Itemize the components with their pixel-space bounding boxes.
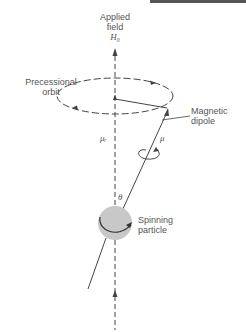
spinning-particle-label: Spinning particle [138,215,173,235]
precessional-line1: Precessional [22,77,80,87]
mu-label: μ [160,133,165,143]
field-arrow-bottom-icon [113,290,118,297]
mu-vector [122,110,168,211]
dipole-leader [162,116,190,120]
mu-arrow-icon [164,108,169,116]
precession-diagram [0,0,246,332]
applied-field-label: Applied field H₀ [92,12,138,42]
orbit-radius [115,99,167,108]
mu-z-label: μᵣ [100,133,107,143]
orbit-arrow-icon [150,81,156,86]
field-arrow-icon [113,48,118,56]
precessional-orbit-label: Precessional orbit [22,77,80,97]
precessional-line2: orbit [22,87,80,97]
spinning-line1: Spinning [138,215,173,225]
spinning-particle [98,206,132,240]
mu-z-arrow-icon [113,94,117,100]
applied-field-line1: Applied [92,12,138,22]
applied-field-line2: field [92,22,138,32]
theta-label: θ [118,192,122,202]
spinning-line2: particle [138,225,173,235]
mu-tail [88,238,106,289]
magnetic-line2: dipole [191,116,228,126]
field-symbol: H₀ [92,32,138,42]
magnetic-dipole-label: Magnetic dipole [191,106,228,126]
magnetic-line1: Magnetic [191,106,228,116]
